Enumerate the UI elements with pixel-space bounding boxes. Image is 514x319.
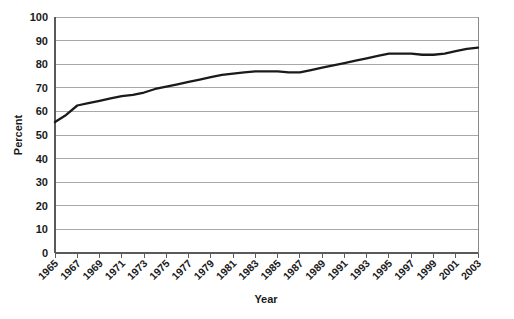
y-tick-label-60: 60	[36, 105, 48, 117]
y-tick-label-50: 50	[36, 129, 48, 141]
y-tick-label-100: 100	[30, 11, 48, 23]
y-tick-label-10: 10	[36, 223, 48, 235]
y-tick-label-70: 70	[36, 82, 48, 94]
y-tick-label-20: 20	[36, 200, 48, 212]
y-tick-label-40: 40	[36, 153, 48, 165]
y-tick-label-0: 0	[42, 247, 48, 259]
x-axis-title: Year	[254, 293, 278, 305]
chart-canvas: 1009080706050403020100 19651967196919711…	[0, 0, 514, 319]
y-tick-label-30: 30	[36, 176, 48, 188]
y-axis-title: Percent	[12, 114, 24, 155]
y-tick-label-80: 80	[36, 58, 48, 70]
y-tick-label-90: 90	[36, 35, 48, 47]
chart-background	[0, 0, 514, 319]
line-chart: 1009080706050403020100 19651967196919711…	[0, 0, 514, 319]
